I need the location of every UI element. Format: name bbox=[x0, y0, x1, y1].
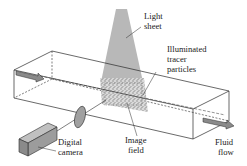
label-light-sheet: Light sheet bbox=[144, 11, 165, 31]
label-digital-camera: Digital camera bbox=[58, 137, 84, 157]
digital-camera-icon bbox=[19, 123, 57, 156]
piv-diagram: Light sheet Illuminated tracer particles… bbox=[0, 0, 247, 166]
inflow-arrow-icon bbox=[16, 71, 44, 82]
label-fluid-flow: Fluid flow bbox=[215, 137, 235, 157]
outflow-arrow-icon bbox=[203, 118, 234, 129]
label-illuminated-tracer-particles: Illuminated tracer particles bbox=[167, 44, 209, 74]
label-image-field: Image field bbox=[125, 135, 149, 155]
lens-icon bbox=[72, 105, 87, 129]
light-sheet bbox=[101, 9, 143, 82]
